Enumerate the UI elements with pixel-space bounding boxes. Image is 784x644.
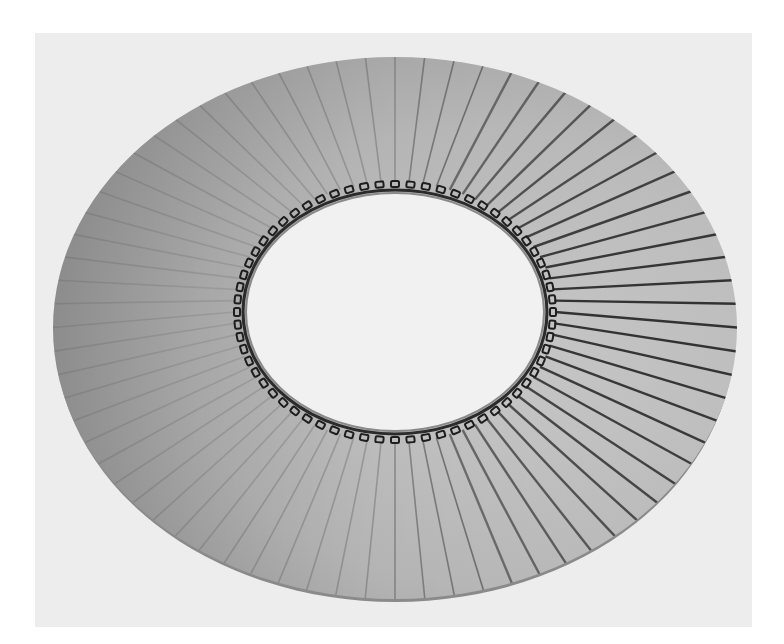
center-hole — [247, 194, 543, 430]
buffing-wheel-illustration — [0, 0, 784, 644]
